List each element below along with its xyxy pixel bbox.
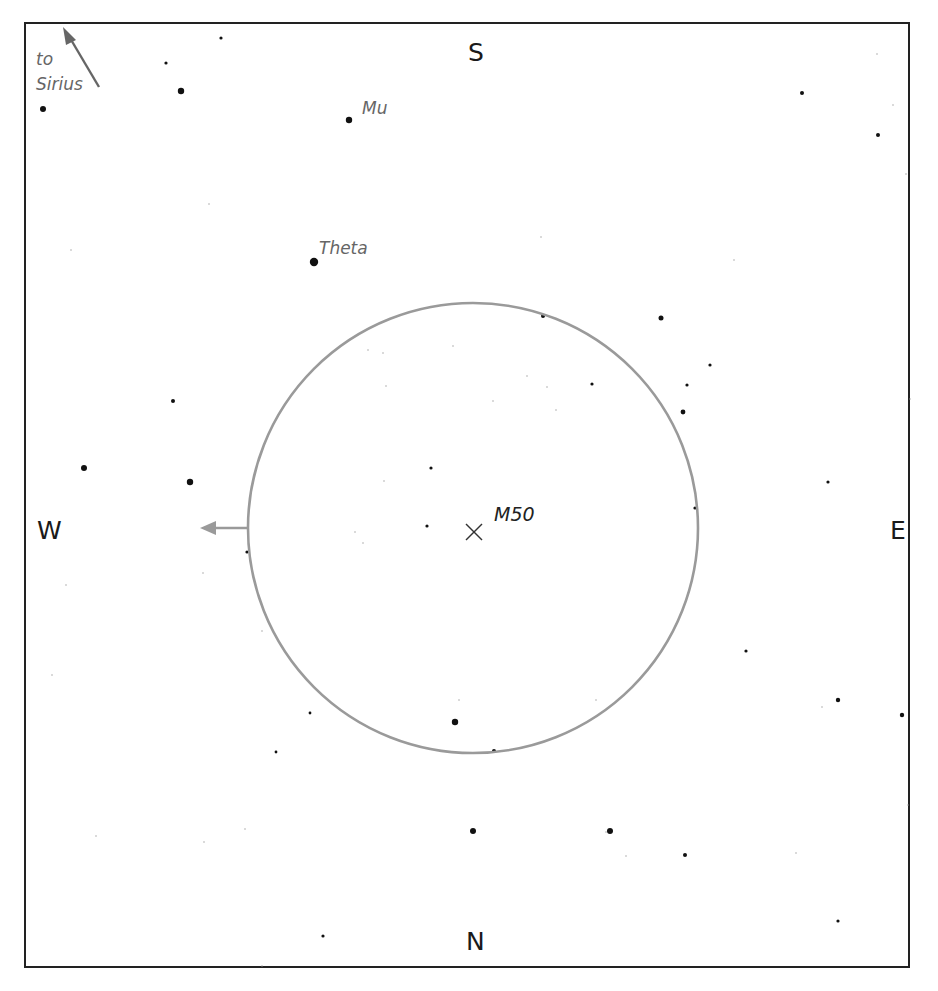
- direction-south: S: [468, 38, 484, 67]
- star-label-theta: Theta: [319, 238, 368, 258]
- star: [385, 385, 386, 386]
- star: [685, 383, 688, 386]
- star: [51, 674, 52, 675]
- star: [452, 345, 453, 346]
- star: [219, 36, 222, 39]
- star: [900, 713, 904, 717]
- star: [836, 919, 839, 922]
- star-field: [0, 0, 938, 991]
- star: [208, 203, 209, 204]
- star: [605, 831, 606, 832]
- star: [202, 572, 203, 573]
- star: [876, 133, 880, 137]
- star: [425, 524, 428, 527]
- star: [625, 855, 626, 856]
- sirius-label-line1: to: [36, 49, 53, 69]
- star: [171, 399, 175, 403]
- drift-arrow-icon: [200, 521, 248, 535]
- star: [826, 480, 829, 483]
- star: [321, 934, 324, 937]
- star: [178, 88, 184, 94]
- star: [555, 409, 556, 410]
- direction-west: W: [37, 516, 62, 545]
- star: [708, 363, 711, 366]
- star: [310, 258, 318, 266]
- star: [187, 479, 193, 485]
- star-label-mu: Mu: [362, 98, 387, 118]
- stars-layer: [40, 36, 911, 966]
- star: [362, 542, 363, 543]
- star: [367, 349, 368, 350]
- star: [261, 965, 262, 966]
- star: [607, 828, 613, 834]
- star: [821, 706, 822, 707]
- x-cross-icon: [466, 524, 482, 540]
- star: [470, 828, 476, 834]
- star: [540, 236, 541, 237]
- star: [492, 400, 493, 401]
- star: [383, 480, 384, 481]
- star: [382, 352, 383, 353]
- star: [203, 841, 204, 842]
- star: [95, 835, 96, 836]
- target-label-m50: M50: [494, 503, 535, 525]
- star: [795, 852, 796, 853]
- star: [309, 712, 312, 715]
- star: [590, 382, 593, 385]
- star: [346, 117, 352, 123]
- star: [733, 259, 734, 260]
- star: [905, 173, 906, 174]
- star: [892, 104, 893, 105]
- sirius-label-line2: Sirius: [36, 74, 83, 94]
- star: [836, 698, 840, 702]
- star: [595, 699, 596, 700]
- star: [429, 466, 432, 469]
- star: [458, 699, 459, 700]
- star: [275, 751, 278, 754]
- star: [546, 386, 547, 387]
- star: [261, 630, 262, 631]
- star: [876, 53, 877, 54]
- star: [354, 531, 355, 532]
- finder-chart: S N W E to Sirius Mu Theta M50: [0, 0, 938, 991]
- star: [907, 804, 908, 805]
- star: [744, 649, 747, 652]
- star: [909, 398, 910, 399]
- star: [683, 853, 687, 857]
- direction-east: E: [890, 516, 906, 545]
- star: [70, 249, 71, 250]
- star: [800, 91, 804, 95]
- star: [526, 375, 527, 376]
- star: [681, 410, 686, 415]
- star: [659, 316, 664, 321]
- star: [40, 106, 46, 112]
- star: [452, 719, 458, 725]
- star: [65, 584, 66, 585]
- star: [81, 465, 87, 471]
- field-of-view-circle: [248, 303, 698, 753]
- direction-north: N: [466, 927, 485, 956]
- star: [164, 61, 167, 64]
- star: [244, 828, 245, 829]
